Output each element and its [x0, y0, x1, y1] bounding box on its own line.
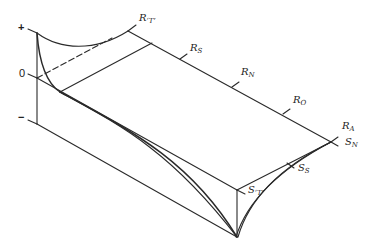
top-face-line: [60, 43, 152, 92]
sn-tick: [331, 142, 338, 146]
front-diagonal-curve: [60, 92, 237, 237]
bottom-edge: [37, 124, 237, 237]
axis-zero-label: 0: [19, 68, 25, 79]
front-diagonal-curve-2: [60, 92, 237, 237]
label-s-n: SN: [345, 137, 358, 149]
label-r-n: RN: [241, 67, 255, 79]
left-steep-curve: [37, 33, 60, 92]
rs-tick: [180, 54, 187, 59]
front-top-edge: [37, 78, 237, 190]
minus-tick: [28, 120, 37, 124]
axis-minus-label: −: [18, 112, 24, 123]
label-r-t: R‘T’: [139, 13, 156, 25]
dashed-line: [37, 38, 112, 78]
label-s-s: SS: [298, 163, 310, 175]
label-r-o: RO: [293, 95, 306, 107]
back-top-edge: [128, 31, 331, 142]
label-r-a: RA: [342, 121, 355, 133]
rn-tick: [232, 82, 239, 87]
diagram-canvas: [0, 0, 373, 249]
st-tick: [237, 190, 245, 194]
label-r-s: RS: [190, 43, 202, 55]
plus-tick: [28, 29, 37, 33]
top-curve: [37, 31, 128, 46]
zero-tick: [28, 74, 37, 78]
label-s-t: S‘T’: [248, 185, 264, 197]
axis-plus-label: +: [18, 22, 24, 33]
ro-tick: [283, 109, 290, 114]
ra-tick: [331, 137, 338, 142]
rt-tick: [128, 25, 136, 31]
